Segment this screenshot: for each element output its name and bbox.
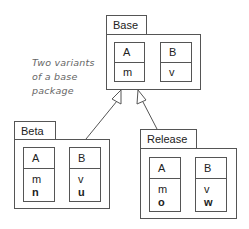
class-members: v w xyxy=(196,179,226,209)
class-members: m o xyxy=(150,179,180,209)
class-members: m n xyxy=(24,169,54,199)
class-b[interactable]: B v u xyxy=(69,147,101,202)
member: m xyxy=(158,183,180,196)
hollow-triangle-arrowhead-icon xyxy=(137,90,146,104)
class-b[interactable]: B v xyxy=(160,42,192,82)
member-added: w xyxy=(204,196,226,209)
class-name: A xyxy=(24,148,54,169)
class-name: B xyxy=(161,43,191,63)
annotation-line: Two variants xyxy=(32,56,95,70)
edge-release-to-base xyxy=(143,102,157,129)
package-tab: Beta xyxy=(14,121,56,140)
hollow-triangle-arrowhead-icon xyxy=(112,90,121,104)
annotation-line: of a base xyxy=(32,70,95,84)
annotation-line: package xyxy=(32,84,95,98)
member: m xyxy=(123,66,144,79)
member: v xyxy=(169,66,191,79)
member-added: n xyxy=(32,186,54,199)
class-name: A xyxy=(150,158,180,179)
annotation-note: Two variants of a base package xyxy=(32,56,95,98)
member: v xyxy=(204,183,226,196)
class-b[interactable]: B v w xyxy=(195,157,227,212)
class-members: v xyxy=(161,63,191,79)
member-added: u xyxy=(78,186,100,199)
class-a[interactable]: A m n xyxy=(23,147,55,202)
package-tab: Base xyxy=(106,15,147,35)
member-added: o xyxy=(158,196,180,209)
class-a[interactable]: A m o xyxy=(149,157,181,212)
package-tab: Release xyxy=(140,129,197,149)
class-name: B xyxy=(196,158,226,179)
class-members: m xyxy=(115,63,144,79)
class-name: A xyxy=(115,43,144,63)
edge-beta-to-base xyxy=(86,101,117,139)
class-a[interactable]: A m xyxy=(114,42,145,82)
class-name: B xyxy=(70,148,100,169)
member: m xyxy=(32,173,54,186)
member: v xyxy=(78,173,100,186)
class-members: v u xyxy=(70,169,100,199)
